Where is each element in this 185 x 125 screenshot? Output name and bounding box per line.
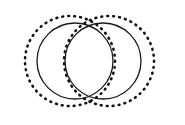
overlapping-circles-figure bbox=[0, 0, 185, 125]
diagram-canvas bbox=[0, 0, 185, 125]
figure-background bbox=[0, 0, 185, 125]
